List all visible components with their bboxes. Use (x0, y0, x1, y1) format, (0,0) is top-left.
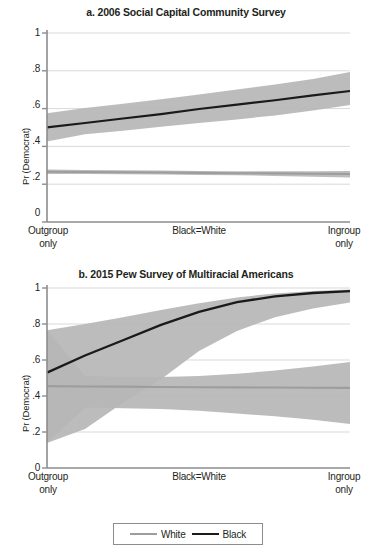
legend-label-black: Black (223, 529, 246, 540)
panel-b: b. 2015 Pew Survey of Multiracial Americ… (0, 262, 372, 490)
figure-root: a. 2006 Social Capital Community Survey … (0, 0, 372, 552)
panel-b-xtick-ingroup: Ingroup only (316, 471, 372, 496)
panel-a-xtick-equal: Black=White (163, 225, 235, 238)
panel-a-xtick-ingroup: Ingroup only (316, 225, 372, 250)
panel-a: a. 2006 Social Capital Community Survey … (0, 0, 372, 262)
legend-label-white: White (161, 529, 186, 540)
legend-entry-black: Black (192, 529, 246, 540)
panel-b-plot-area (0, 262, 372, 490)
panel-b-xtick-equal: Black=White (163, 471, 235, 484)
panel-a-plot-area (0, 0, 372, 262)
legend: White Black (113, 523, 263, 545)
panel-b-xtick-outgroup: Outgroup only (13, 471, 83, 496)
black-line-key-icon (192, 533, 219, 535)
panel-a-xtick-outgroup: Outgroup only (13, 225, 83, 250)
panel-a-ci-black (47, 72, 350, 142)
white-line-key-icon (130, 533, 157, 535)
legend-entry-white: White (130, 529, 186, 540)
